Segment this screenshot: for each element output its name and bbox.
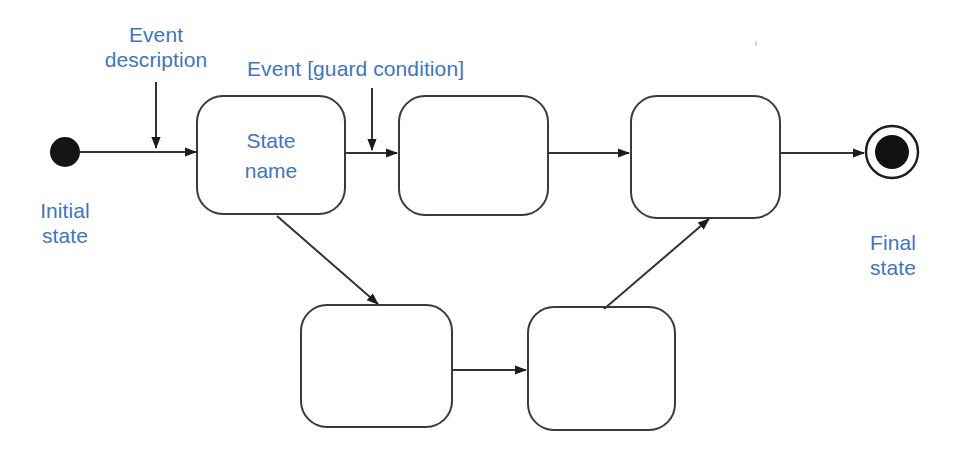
annotation-initial-state-line1: Initial (32, 198, 98, 223)
diagram-canvas: Event description Event [guard condition… (0, 0, 970, 457)
state-node-2[interactable] (399, 96, 548, 215)
state-node-1-label: State name (197, 126, 345, 186)
transition-state1-to-state4[interactable] (277, 216, 378, 304)
transition-state5-to-state3[interactable] (604, 219, 709, 309)
annotation-final-state-line2: state (861, 255, 925, 280)
state-node-3[interactable] (631, 96, 780, 218)
scan-speck (755, 41, 757, 46)
state-node-4[interactable] (301, 305, 452, 427)
annotation-event-description-line1: Event (102, 22, 210, 47)
state-node-5[interactable] (528, 307, 675, 430)
annotation-final-state: Final state (861, 230, 925, 280)
annotation-event-description: Event description (102, 22, 210, 72)
annotation-initial-state-line2: state (32, 223, 98, 248)
annotation-event-description-line2: description (102, 47, 210, 72)
annotation-final-state-line1: Final (861, 230, 925, 255)
final-state-node[interactable] (866, 126, 918, 178)
annotation-initial-state: Initial state (32, 198, 98, 248)
annotation-event-guard-condition: Event [guard condition] (247, 56, 464, 81)
initial-state-node[interactable] (50, 137, 80, 167)
